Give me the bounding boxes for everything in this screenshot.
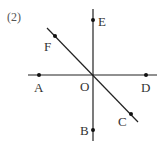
geometry-diagram: (2) EFADCB O: [0, 0, 163, 143]
point-c-label: C: [118, 114, 127, 129]
point-f-label: F: [44, 39, 51, 54]
point-c-dot: [129, 112, 133, 116]
point-e-dot: [91, 18, 95, 22]
point-b-dot: [91, 128, 95, 132]
point-f-dot: [53, 34, 57, 38]
point-a-label: A: [34, 80, 44, 95]
point-b-label: B: [80, 123, 89, 138]
point-e-label: E: [98, 14, 106, 29]
problem-number: (2): [7, 10, 21, 24]
point-a-dot: [37, 73, 41, 77]
point-d-dot: [144, 73, 148, 77]
point-d-label: D: [141, 80, 150, 95]
origin-label-o: O: [80, 79, 89, 94]
